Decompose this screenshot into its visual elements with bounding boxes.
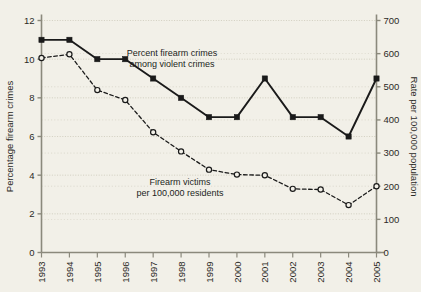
data-point: [123, 97, 128, 102]
data-point: [206, 167, 211, 172]
x-tick-label: 1998: [176, 262, 187, 283]
data-point: [318, 115, 323, 120]
y-tick-label: 0: [29, 247, 34, 258]
y-axis-left-title: Percentage firearm crimes: [4, 81, 15, 193]
annotation-line: among violent crimes: [129, 59, 215, 69]
x-tick-label: 1999: [204, 262, 215, 283]
y2-tick-label: 500: [384, 81, 400, 92]
annotation-firearm-victims: Firearm victimsper 100,000 residents: [136, 177, 224, 198]
x-tick-label: 2000: [232, 262, 243, 283]
data-point: [262, 173, 267, 178]
data-point: [39, 37, 44, 42]
data-point: [95, 57, 100, 62]
x-tick-label: 1994: [64, 262, 75, 283]
x-tick-label: 2003: [315, 262, 326, 283]
data-point: [39, 55, 44, 60]
y2-tick-label: 400: [384, 114, 400, 125]
y-tick-label: 4: [29, 170, 34, 181]
data-point: [151, 76, 156, 81]
x-tick-label: 2005: [371, 262, 382, 283]
y2-tick-label: 200: [384, 181, 400, 192]
x-tick-label: 2002: [287, 262, 298, 283]
y2-tick-label: 0: [384, 247, 389, 258]
x-tick-label: 1993: [36, 262, 47, 283]
data-point: [234, 115, 239, 120]
x-tick-label: 1995: [92, 262, 103, 283]
y-tick-label: 8: [29, 92, 34, 103]
x-axis-ticks: 1993199419951996199719981999200020012002…: [36, 253, 382, 283]
x-tick-label: 2004: [343, 262, 354, 283]
line-chart: 0246810120100200300400500600700199319941…: [0, 0, 421, 292]
data-point: [290, 115, 295, 120]
annotation-line: per 100,000 residents: [136, 188, 224, 198]
data-point: [262, 76, 267, 81]
y-tick-label: 6: [29, 131, 34, 142]
y-axis-right-title: Rate per 100,000 population: [409, 77, 420, 197]
annotation-line: Percent firearm crimes: [127, 48, 218, 58]
data-point: [67, 52, 72, 57]
data-point: [178, 149, 183, 154]
data-point: [178, 95, 183, 100]
data-point: [151, 130, 156, 135]
y-axis-left-ticks: 024681012: [24, 15, 42, 258]
x-tick-label: 1996: [120, 262, 131, 283]
data-point: [234, 172, 239, 177]
data-point: [206, 115, 211, 120]
y2-tick-label: 300: [384, 147, 400, 158]
y2-tick-label: 600: [384, 48, 400, 59]
data-point: [374, 76, 379, 81]
data-point: [346, 203, 351, 208]
data-point: [290, 186, 295, 191]
data-point: [346, 134, 351, 139]
y-tick-label: 10: [24, 54, 35, 65]
y2-tick-label: 100: [384, 214, 400, 225]
chart-figure: 0246810120100200300400500600700199319941…: [0, 0, 421, 292]
axis-titles: Percentage firearm crimesRate per 100,00…: [4, 77, 420, 197]
data-point: [95, 88, 100, 93]
y2-tick-label: 700: [384, 15, 400, 26]
x-tick-label: 2001: [259, 262, 270, 283]
annotation-line: Firearm victims: [150, 177, 211, 187]
data-point: [67, 37, 72, 42]
y-axis-right-ticks: 0100200300400500600700: [377, 15, 400, 258]
x-tick-label: 1997: [148, 262, 159, 283]
y-tick-label: 2: [29, 208, 34, 219]
y-tick-label: 12: [24, 15, 35, 26]
annotation-percent-firearm-crimes: Percent firearm crimesamong violent crim…: [127, 48, 218, 69]
data-point: [374, 184, 379, 189]
data-point: [318, 187, 323, 192]
